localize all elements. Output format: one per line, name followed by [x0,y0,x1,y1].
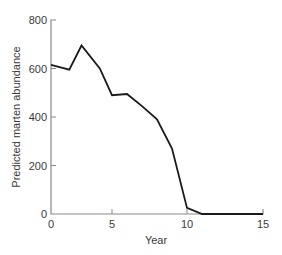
x-tick-label: 5 [109,218,115,230]
y-tick-label: 200 [29,160,47,172]
x-axis-label: Year [145,234,168,246]
chart-axes [51,20,263,214]
x-tick-label: 15 [257,218,269,230]
y-tick-label: 800 [29,14,47,26]
y-tick-label: 0 [41,208,47,220]
y-tick-label: 600 [29,63,47,75]
x-tick-label: 0 [48,218,54,230]
y-tick-label: 400 [29,111,47,123]
abundance-line [51,46,263,215]
y-axis-ticks: 0200400600800 [29,14,56,220]
x-tick-label: 10 [181,218,193,230]
x-axis-ticks: 051015 [48,209,269,230]
y-axis-label: Predicted marten abundance [10,46,22,187]
line-chart: 0200400600800 051015 Year Predicted mart… [0,0,282,255]
